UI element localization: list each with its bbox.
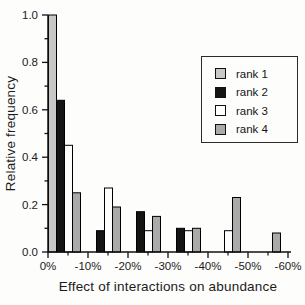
bar-rank-3 — [145, 231, 153, 252]
bar-rank-3 — [185, 231, 193, 252]
legend-item: rank 4 — [215, 123, 291, 136]
legend: rank 1rank 2rank 3rank 4 — [201, 56, 298, 143]
legend-swatch-rank-1 — [215, 68, 226, 79]
x-tick-label: 0% — [40, 260, 57, 272]
legend-swatch-rank-3 — [215, 105, 226, 116]
figure: 0.00.20.40.60.81.00%-10%-20%-30%-40%-50%… — [0, 0, 305, 305]
bar-rank-4 — [73, 193, 81, 252]
x-tick-label: -50% — [235, 260, 262, 272]
x-tick-label: -30% — [155, 260, 182, 272]
x-axis-title: Effect of interactions on abundance — [40, 279, 296, 294]
legend-swatch-rank-2 — [215, 87, 226, 98]
bar-rank-4 — [153, 216, 161, 252]
bar-rank-2 — [57, 100, 65, 252]
y-axis-title: Relative frequency — [3, 34, 20, 234]
bar-rank-4 — [193, 228, 201, 252]
legend-label: rank 2 — [236, 86, 268, 98]
bar-chart-canvas: 0.00.20.40.60.81.00%-10%-20%-30%-40%-50%… — [0, 0, 305, 305]
bar-rank-2 — [137, 212, 145, 252]
legend-swatch-rank-4 — [215, 124, 226, 135]
bar-rank-4 — [273, 233, 281, 252]
legend-item: rank 1 — [215, 67, 291, 80]
y-tick-label: 0.0 — [22, 246, 38, 258]
y-tick-label: 0.8 — [22, 56, 38, 68]
y-tick-label: 0.2 — [22, 199, 38, 211]
bar-rank-1 — [49, 15, 57, 252]
y-tick-label: 1.0 — [22, 9, 38, 21]
legend-label: rank 1 — [236, 68, 268, 80]
bar-rank-4 — [233, 198, 241, 253]
bar-rank-4 — [113, 207, 121, 252]
legend-label: rank 3 — [236, 105, 268, 117]
legend-item: rank 2 — [215, 86, 291, 99]
x-tick-label: -20% — [115, 260, 142, 272]
legend-label: rank 4 — [236, 123, 268, 135]
bar-rank-2 — [177, 228, 185, 252]
bar-rank-2 — [97, 231, 105, 252]
bar-rank-3 — [105, 188, 113, 252]
x-tick-label: -40% — [195, 260, 222, 272]
y-tick-label: 0.4 — [22, 151, 39, 163]
x-tick-label: -60% — [275, 260, 302, 272]
x-tick-label: -10% — [75, 260, 102, 272]
bar-rank-3 — [225, 231, 233, 252]
y-tick-label: 0.6 — [22, 104, 38, 116]
legend-item: rank 3 — [215, 104, 291, 117]
bar-rank-3 — [65, 145, 73, 252]
